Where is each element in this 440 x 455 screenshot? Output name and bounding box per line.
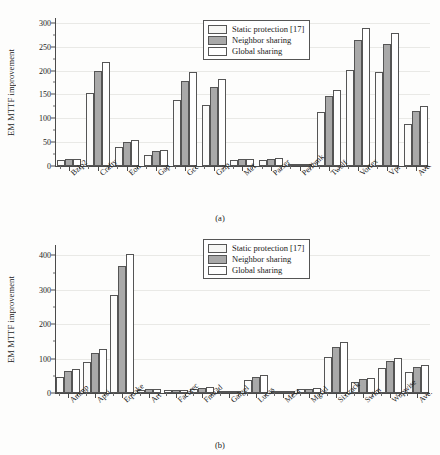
bar-twolf-s2 [333,90,341,166]
x-label-cell: Sixtrack [323,398,350,438]
bar-group [55,245,82,393]
bar-group [135,245,162,393]
x-label-cell: Art [135,398,162,438]
legend-label: Global sharing [232,46,282,56]
bar-group [109,245,136,393]
y-axis-label-a: EM MTTF improvement [6,24,16,162]
bar-group [401,18,430,166]
bar-equake-s2 [126,254,134,393]
legend-entry: Static protection [17] [208,243,304,253]
legend-b: Static protection [17]Neighbor sharingGl… [203,239,310,279]
chart-panel-a: EM MTTF improvement 050100150200250300 B… [0,0,440,227]
bar-mcf-s1 [238,159,246,166]
x-label-cell: Lucas [242,398,269,438]
x-label-cell: Perlbmk [286,171,315,211]
bar-ammp-s1 [64,371,72,393]
bar-eon-s1 [123,142,131,166]
bar-ammp-s0 [56,377,64,393]
legend-label: Neighbor sharing [232,35,291,45]
x-axis-labels-b: AmmpApsiEquakeArtFacerecFma3dGalgelLucas… [55,398,430,438]
legend-entry: Global sharing [208,265,304,275]
bar-apsi-s2 [99,349,107,393]
legend-swatch-icon [208,255,227,264]
x-label-cell: Gap [142,171,171,211]
legend-label: Neighbor sharing [232,254,291,264]
bar-gap-s1 [152,151,160,166]
bar-equake-s1 [118,266,126,393]
x-label-cell: Facerec [162,398,189,438]
x-label-cell: Parser [257,171,286,211]
x-label-cell: Swim [350,398,377,438]
x-label-cell: Twolf [315,171,344,211]
figure: EM MTTF improvement 050100150200250300 B… [0,0,440,455]
bar-vortex-s2 [362,28,370,166]
x-label-cell: Bzip2 [55,171,84,211]
bar-group [170,18,199,166]
x-label-cell: Equake [109,398,136,438]
y-tick-label: 200 [39,66,51,75]
bar-parser-s1 [267,159,275,166]
bar-group [84,18,113,166]
bar-vortex-s1 [354,40,362,166]
legend-swatch-icon [208,244,227,253]
y-tick-label: 200 [39,320,51,329]
bar-group [376,245,403,393]
bar-group [343,18,372,166]
y-tick-label: 300 [39,285,51,294]
x-label-cell: Fma3d [189,398,216,438]
bar-gzip-s1 [210,87,218,166]
y-tick-label: 100 [39,114,51,123]
x-label-cell: Vpr [372,171,401,211]
x-label-cell: Mcf [228,171,257,211]
panel-caption-a: (a) [0,213,440,223]
bar-gcc-s0 [173,100,181,166]
bar-group [113,18,142,166]
x-label-cell: Mgrid [296,398,323,438]
bar-group [323,245,350,393]
bar-group [403,245,430,393]
x-label-cell: Ave. [403,398,430,438]
bar-bzip2-s1 [65,159,73,166]
y-axis-label-b: EM MTTF improvement [6,251,16,389]
bar-ave-s2 [420,106,428,166]
bar-gcc-s1 [181,81,189,166]
x-label-cell: Mesa [269,398,296,438]
y-tick-label: 400 [39,251,51,260]
legend-label: Global sharing [232,265,282,275]
x-label-cell: Crafty [84,171,113,211]
legend-entry: Neighbor sharing [208,254,304,264]
x-label-cell: Apsi [82,398,109,438]
x-label-cell: Galgel [216,398,243,438]
bar-twolf-s1 [325,96,333,166]
bar-group [82,245,109,393]
bar-gcc-s2 [189,72,197,166]
legend-label: Static protection [17] [232,24,304,34]
legend-entry: Static protection [17] [208,24,304,34]
bar-gap-s0 [144,155,152,166]
bar-ave-s0 [404,124,412,166]
bar-sixtrack-s2 [340,342,348,393]
x-label-cell: Vortex [343,171,372,211]
x-label-cell: Eon [113,171,142,211]
x-axis-labels-a: Bzip2CraftyEonGapGccGzipMcfParserPerlbmk… [55,171,430,211]
y-tick-label: 250 [39,42,51,51]
bar-group [142,18,171,166]
bar-wupwise-s1 [386,361,394,393]
bar-group [350,245,377,393]
bar-gzip-s2 [218,79,226,166]
legend-swatch-icon [208,47,227,56]
panel-caption-b: (b) [0,440,440,450]
bar-vpr-s2 [391,33,399,166]
bar-crafty-s1 [94,71,102,166]
bar-group [55,18,84,166]
x-label-cell: Gzip [199,171,228,211]
chart-panel-b: EM MTTF improvement 0100200300400 AmmpAp… [0,227,440,454]
bar-vpr-s0 [375,72,383,166]
bar-sixtrack-s1 [332,347,340,393]
legend-entry: Neighbor sharing [208,35,304,45]
x-label-cell: Gcc [170,171,199,211]
bar-vpr-s1 [383,44,391,166]
bar-group [162,245,189,393]
legend-a: Static protection [17]Neighbor sharingGl… [203,20,310,60]
y-tick-label: 150 [39,90,51,99]
